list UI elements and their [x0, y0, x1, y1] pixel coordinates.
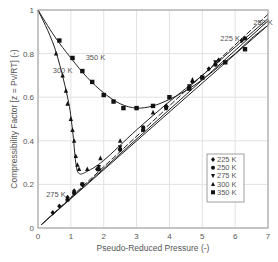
x-tick-label: 3: [134, 232, 139, 241]
curve-label: 350 K: [86, 53, 106, 62]
marker-triangle-up: [151, 110, 155, 115]
y-tick-label: 0.4: [23, 137, 35, 146]
marker-circle: [65, 197, 69, 201]
curve-label: 250 K: [253, 18, 273, 27]
marker-triangle-up: [69, 116, 73, 121]
marker-square: [211, 190, 215, 194]
marker-square: [167, 95, 171, 99]
marker-square: [80, 69, 84, 73]
curve-label: 300 K: [53, 66, 73, 75]
marker-triangle-up: [85, 167, 89, 172]
x-axis-ticks: 01234567: [36, 232, 271, 241]
y-axis-label: Compressibility Factor [z = Pv/RT] (-): [9, 49, 19, 189]
marker-square: [70, 56, 74, 60]
x-tick-label: 0: [36, 232, 41, 241]
marker-square: [187, 86, 191, 90]
x-tick-label: 4: [167, 232, 172, 241]
curve-label: 275 K: [46, 190, 66, 199]
marker-diamond: [51, 210, 55, 215]
y-tick-label: 0.2: [23, 180, 35, 189]
marker-square: [200, 75, 204, 79]
legend-label: 350 K: [217, 188, 237, 197]
marker-triangle-up: [190, 77, 194, 82]
x-tick-label: 6: [233, 232, 238, 241]
curve-label: 225 K: [220, 34, 240, 43]
x-tick-label: 1: [69, 232, 74, 241]
marker-square: [111, 99, 115, 103]
marker-triangle-up: [64, 88, 68, 93]
y-tick-label: 0.6: [23, 93, 35, 102]
marker-square: [121, 106, 125, 110]
y-tick-label: 0.8: [23, 50, 35, 59]
x-tick-label: 5: [200, 232, 205, 241]
marker-square: [57, 38, 61, 42]
marker-circle: [72, 191, 76, 195]
marker-square: [102, 93, 106, 97]
y-tick-label: 0: [30, 224, 35, 233]
compressibility-factor-chart: 01234567 00.20.40.60.81 Pseudo-Reduced P…: [0, 0, 278, 262]
marker-triangle-up: [98, 156, 102, 161]
marker-square: [134, 106, 138, 110]
y-axis-ticks: 00.20.40.60.81: [23, 6, 35, 233]
marker-circle: [211, 166, 215, 170]
marker-circle: [243, 36, 247, 40]
marker-square: [223, 60, 227, 64]
x-axis-label: Pseudo-Reduced Pressure (-): [97, 243, 210, 253]
marker-square: [90, 80, 94, 84]
legend: 225 K250 K275 K300 K350 K: [207, 154, 244, 202]
x-tick-label: 7: [266, 232, 271, 241]
marker-square: [151, 104, 155, 108]
marker-triangle-up: [77, 167, 81, 172]
y-tick-label: 1: [30, 6, 35, 15]
x-tick-label: 2: [101, 232, 106, 241]
marker-triangle-up: [74, 153, 78, 158]
marker-square: [243, 47, 247, 51]
